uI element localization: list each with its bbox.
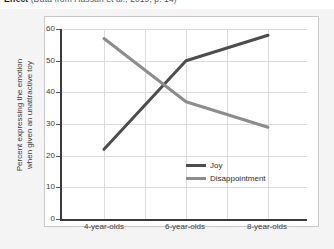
caption-strip: Effect (Data from Hassan et al., 2019, p… xyxy=(0,0,334,9)
caption-regular-part: (Data from Hassan et al., 2019, p. 14) xyxy=(31,0,177,4)
caption-bold-part: Effect xyxy=(4,0,31,4)
figure-caption: Effect (Data from Hassan et al., 2019, p… xyxy=(4,0,177,4)
chart-panel xyxy=(44,16,319,227)
